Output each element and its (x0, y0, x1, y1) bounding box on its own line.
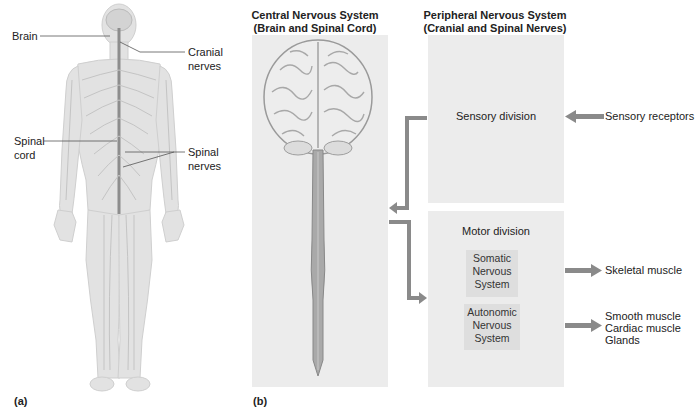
label-glands: Glands (605, 334, 640, 347)
caption-b: (b) (253, 395, 267, 407)
diagram-graphics (0, 0, 699, 419)
label-sensory-receptors: Sensory receptors (605, 110, 694, 123)
brain-illustration (264, 40, 372, 155)
label-skeletal-muscle: Skeletal muscle (605, 264, 682, 277)
